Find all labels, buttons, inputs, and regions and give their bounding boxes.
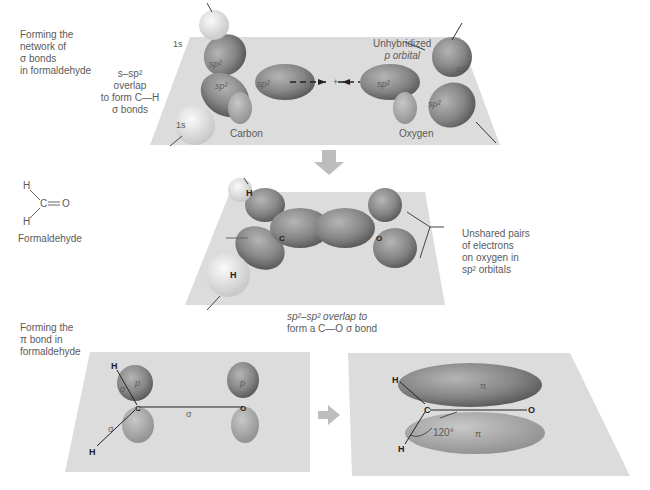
atom-h: H — [111, 360, 118, 372]
sigma-label: σ — [108, 423, 114, 435]
atom-h: H — [398, 443, 405, 455]
s-sp2-overlap-label: s–sp² overlap to form C—H σ bonds — [100, 68, 160, 116]
orbital-label-sp2: sp² — [377, 78, 390, 90]
unhybridized-p-label: Unhybridized p orbital — [373, 38, 431, 62]
pi-label: π — [480, 380, 486, 392]
label-line: of electrons — [462, 240, 530, 252]
atom-o: O — [62, 198, 70, 210]
orbital-label-sp2: sp² — [428, 98, 441, 110]
atom-c: C — [135, 403, 141, 415]
atom-o: O — [376, 233, 382, 245]
right-arrow-icon — [318, 405, 340, 425]
heading-line: Forming the — [20, 322, 81, 334]
sp2-sp2-overlap-caption: sp²–sp² overlap to form a C—O σ bond — [287, 311, 377, 335]
label-line: on oxygen in — [462, 252, 530, 264]
label-line: Unshared pairs — [462, 228, 530, 240]
atom-c: C — [279, 233, 285, 245]
atom-o: O — [528, 404, 535, 416]
oxygen-label: Oxygen — [399, 128, 433, 140]
p-label: p — [135, 377, 140, 389]
formaldehyde-label: Formaldehyde — [18, 233, 82, 245]
orbital-label-sp2: sp² — [456, 63, 469, 75]
orbital-label-sp2: sp² — [209, 58, 222, 70]
overlap-line: to form C—H — [100, 92, 160, 104]
bond-angle-label: 120° — [433, 427, 454, 439]
atom-h: H — [89, 446, 96, 458]
orbital-diagram — [0, 0, 650, 490]
caption-line: form a C—O σ bond — [287, 323, 377, 335]
atom-h: H — [392, 374, 399, 386]
atom-c: C — [40, 198, 47, 210]
carbon-label: Carbon — [230, 128, 263, 140]
pi-bond-heading: Forming the π bond in formaldehyde — [20, 322, 81, 358]
sigma-network-heading: Forming the network of σ bonds in formal… — [20, 29, 91, 77]
overlap-line: σ bonds — [100, 104, 160, 116]
heading-line: formaldehyde — [20, 346, 81, 358]
orbital-label-sp2: sp² — [257, 78, 270, 90]
heading-line: π bond in — [20, 334, 81, 346]
orbital-label-sp2: sp² — [215, 80, 228, 92]
orbital-label-1s-bottom: 1s — [176, 119, 186, 131]
label-line: Unhybridized — [373, 38, 431, 50]
atom-h: H — [23, 180, 30, 192]
atom-c: C — [424, 404, 431, 416]
p-label: p — [240, 377, 245, 389]
heading-line: Forming the — [20, 29, 91, 41]
atom-o: O — [240, 403, 246, 415]
heading-line: σ bonds — [20, 53, 91, 65]
plus-sign: + — [333, 76, 338, 88]
unshared-pairs-label: Unshared pairs of electrons on oxygen in… — [462, 228, 530, 276]
label-line: p orbital — [373, 50, 431, 62]
heading-line: in formaldehyde — [20, 65, 91, 77]
label-line: sp² orbitals — [462, 264, 530, 276]
caption-line: sp²–sp² overlap to — [287, 311, 377, 323]
heading-line: network of — [20, 41, 91, 53]
pi-label: π — [475, 428, 481, 440]
atom-h: H — [230, 269, 237, 281]
sigma-label: σ — [186, 408, 192, 420]
orbital-label-1s-top: 1s — [173, 38, 183, 50]
sigma-label: σ — [120, 383, 126, 395]
atom-h: H — [246, 187, 253, 199]
overlap-line: s–sp² overlap — [100, 68, 160, 92]
atom-h: H — [23, 216, 30, 228]
down-arrow-icon — [314, 150, 344, 175]
